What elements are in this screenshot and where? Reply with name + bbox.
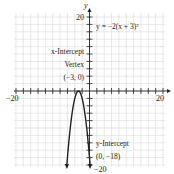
equation-label: y = −2(x + 3)²: [96, 22, 139, 31]
parabola-graph: y 20 −20 −20 20 y = −2(x + 3)² x-Interce…: [0, 0, 174, 174]
y-max-tick-label: 20: [76, 13, 84, 22]
vertex-label-line1: x-Intercept: [51, 47, 85, 56]
x-min-tick-label: −20: [6, 94, 19, 103]
y-min-tick-label: −20: [94, 165, 107, 174]
x-max-tick-label: 20: [156, 94, 164, 103]
y-intercept-label-line2: (0, −18): [96, 152, 121, 161]
vertex-label-line2: Vertex: [64, 60, 84, 69]
y-axis-label: y: [83, 1, 88, 10]
vertex-label-line3: (−3, 0): [64, 73, 85, 82]
y-intercept-label-line1: y-Intercept: [96, 139, 130, 148]
